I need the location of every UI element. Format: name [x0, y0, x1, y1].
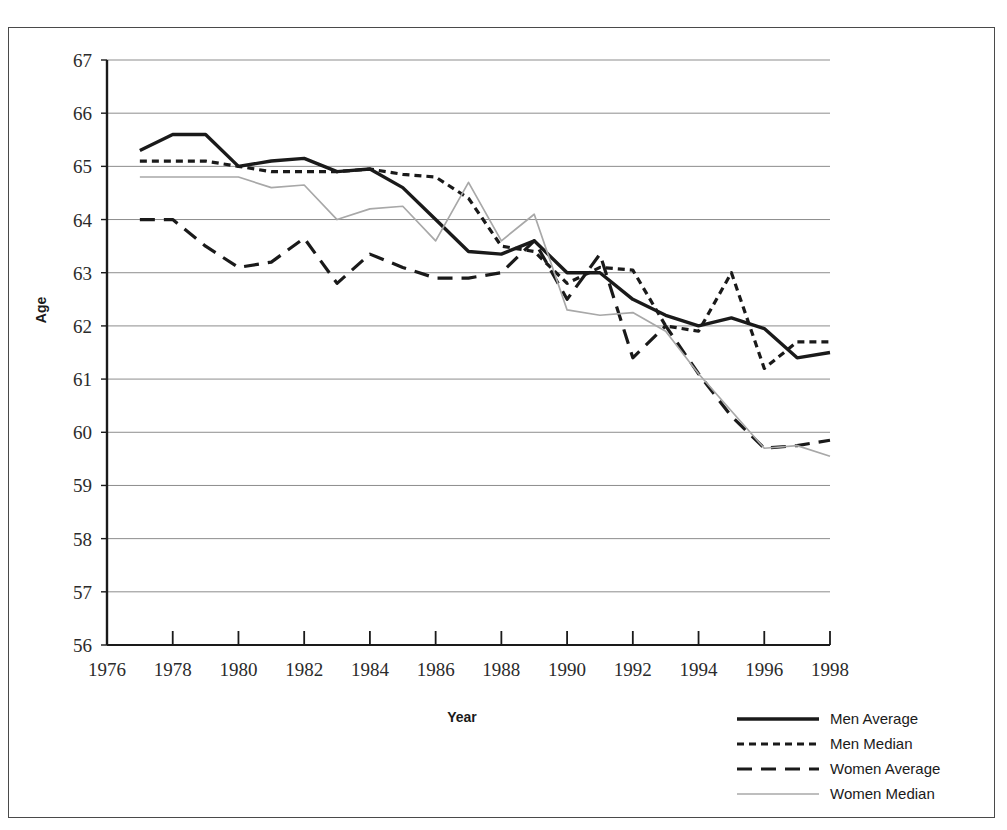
series-line-men-average	[140, 134, 830, 357]
x-tick-label: 1984	[351, 659, 390, 680]
x-tick-label: 1988	[482, 659, 520, 680]
x-tick-label: 1996	[745, 659, 783, 680]
x-tick-label: 1980	[219, 659, 257, 680]
legend-label-men-average: Men Average	[830, 710, 918, 727]
x-tick-label: 1990	[548, 659, 586, 680]
y-tick-label: 59	[73, 475, 92, 496]
retirement-age-line-chart: 565758596061626364656667 197619781980198…	[0, 0, 1007, 830]
x-tick-label: 1998	[811, 659, 849, 680]
y-tick-label: 56	[73, 635, 92, 656]
legend-label-women-median: Women Median	[830, 785, 935, 802]
x-tick-label: 1986	[417, 659, 455, 680]
legend-label-men-median: Men Median	[830, 735, 913, 752]
y-axis-tick-labels: 565758596061626364656667	[73, 50, 107, 656]
series-line-women-median	[140, 177, 830, 456]
page-root: 565758596061626364656667 197619781980198…	[0, 0, 1007, 830]
x-axis-ticks	[107, 627, 830, 645]
gridlines	[107, 60, 830, 592]
legend: Men AverageMen MedianWomen AverageWomen …	[737, 710, 940, 802]
y-tick-label: 67	[73, 50, 92, 71]
y-tick-label: 63	[73, 263, 92, 284]
x-tick-label: 1994	[680, 659, 719, 680]
y-axis-title: Age	[33, 297, 49, 324]
y-tick-label: 62	[73, 316, 92, 337]
data-series-group	[140, 134, 830, 456]
y-tick-label: 58	[73, 529, 92, 550]
x-tick-label: 1992	[614, 659, 652, 680]
y-tick-label: 60	[73, 422, 92, 443]
series-line-men-median	[140, 161, 830, 368]
y-tick-label: 66	[73, 103, 92, 124]
y-tick-label: 65	[73, 156, 92, 177]
y-tick-label: 61	[73, 369, 92, 390]
x-tick-label: 1976	[88, 659, 126, 680]
x-tick-label: 1978	[154, 659, 192, 680]
legend-label-women-average: Women Average	[830, 760, 940, 777]
y-tick-label: 57	[73, 582, 92, 603]
x-axis-title: Year	[447, 709, 477, 725]
x-axis-tick-labels: 1976197819801982198419861988199019921994…	[88, 659, 849, 680]
y-tick-label: 64	[73, 210, 93, 231]
x-tick-label: 1982	[285, 659, 323, 680]
